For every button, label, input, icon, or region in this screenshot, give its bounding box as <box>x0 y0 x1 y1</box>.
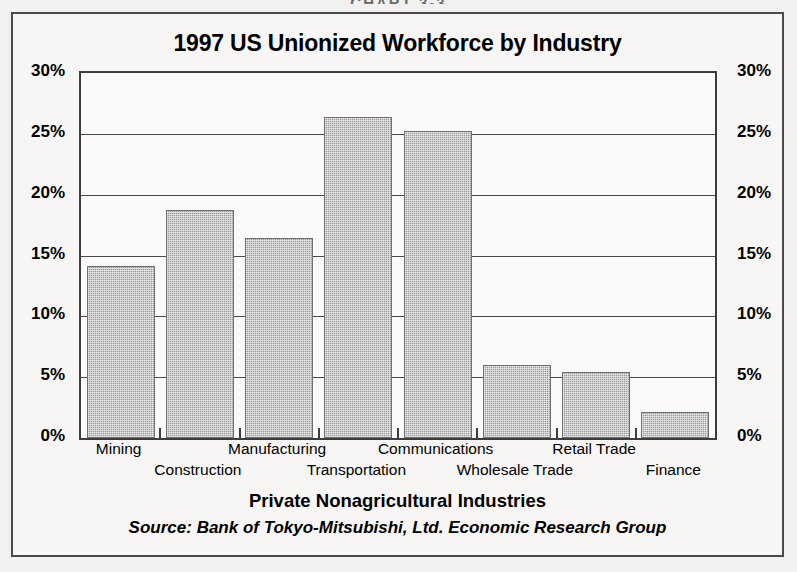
x-axis-label-communications: Communications <box>378 440 493 458</box>
chart-figure-frame: 1997 US Unionized Workforce by Industry … <box>11 12 784 557</box>
y-tick-label-right-10: 10% <box>729 304 789 324</box>
x-axis-label-mining: Mining <box>96 440 142 458</box>
y-axis-labels-left: 0%5%10%15%20%25%30% <box>13 71 65 436</box>
bar-slot-transportation <box>319 73 398 438</box>
bar-wholesale-trade[interactable] <box>483 365 551 438</box>
y-tick-label-right-20: 20% <box>729 183 789 203</box>
bar-manufacturing[interactable] <box>245 238 313 438</box>
x-axis-label-finance: Finance <box>646 461 701 479</box>
bar-slot-construction <box>160 73 239 438</box>
y-tick-label-left-5: 5% <box>13 365 65 385</box>
bar-transportation[interactable] <box>324 117 392 438</box>
y-tick-label-left-10: 10% <box>13 304 65 324</box>
bar-slot-mining <box>81 73 160 438</box>
bar-communications[interactable] <box>404 131 472 438</box>
bar-slot-wholesale-trade <box>477 73 556 438</box>
bar-finance[interactable] <box>641 412 709 438</box>
y-tick-label-right-0: 0% <box>729 426 789 446</box>
plot-area <box>79 71 717 440</box>
y-tick-label-left-0: 0% <box>13 426 65 446</box>
y-tick-label-left-15: 15% <box>13 244 65 264</box>
page-caption: CHART 3-3 <box>0 0 797 4</box>
bar-series <box>81 73 715 438</box>
y-tick-label-left-30: 30% <box>13 61 65 81</box>
x-axis-label-construction: Construction <box>154 461 241 479</box>
y-tick-label-left-20: 20% <box>13 183 65 203</box>
bar-slot-retail-trade <box>557 73 636 438</box>
bar-retail-trade[interactable] <box>562 372 630 438</box>
bar-slot-manufacturing <box>240 73 319 438</box>
x-axis-label-transportation: Transportation <box>307 461 406 479</box>
x-axis-label-retail-trade: Retail Trade <box>552 440 636 458</box>
source-note: Source: Bank of Tokyo-Mitsubishi, Ltd. E… <box>13 518 782 538</box>
y-tick-label-right-5: 5% <box>729 365 789 385</box>
chart-title: 1997 US Unionized Workforce by Industry <box>13 30 782 57</box>
bar-slot-communications <box>398 73 477 438</box>
bar-construction[interactable] <box>166 210 234 438</box>
y-tick-label-right-25: 25% <box>729 122 789 142</box>
x-axis-labels: MiningConstructionManufacturingTransport… <box>79 440 713 486</box>
bar-slot-finance <box>636 73 715 438</box>
bar-mining[interactable] <box>87 266 155 438</box>
y-tick-label-right-15: 15% <box>729 244 789 264</box>
x-axis-label-manufacturing: Manufacturing <box>228 440 326 458</box>
y-axis-labels-right: 0%5%10%15%20%25%30% <box>729 71 781 436</box>
y-tick-label-left-25: 25% <box>13 122 65 142</box>
x-axis-label-wholesale-trade: Wholesale Trade <box>457 461 573 479</box>
y-tick-label-right-30: 30% <box>729 61 789 81</box>
x-axis-title: Private Nonagricultural Industries <box>13 490 782 512</box>
